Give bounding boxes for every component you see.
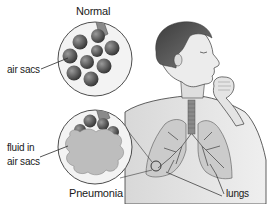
fluid-label-line2: air sacs	[7, 156, 40, 168]
pneumonia-label: Pneumonia	[69, 187, 123, 199]
person-figure	[125, 22, 266, 204]
fluid-label-line1: fluid in	[7, 142, 34, 154]
air-sacs-label: air sacs	[7, 64, 40, 76]
normal-air-sacs-circle	[41, 22, 132, 96]
pneumonia-air-sacs-circle	[40, 108, 132, 184]
lungs-label: lungs	[226, 188, 249, 200]
pneumonia-diagram: Normal air sacs fluid in air sacs Pneumo…	[0, 0, 269, 204]
diagram-illustration	[0, 0, 269, 204]
normal-label: Normal	[76, 5, 110, 17]
